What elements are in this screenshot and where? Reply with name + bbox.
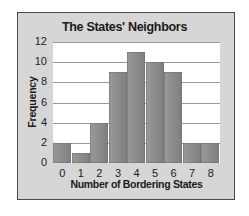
y-tick-label: 10 [21,55,47,67]
bar-1 [72,153,90,163]
x-axis-label: Number of Bordering States [53,178,220,190]
bar-5 [146,62,164,163]
y-tick-label: 4 [21,116,47,128]
y-tick-label: 8 [21,75,47,87]
y-tick-label: 2 [21,136,47,148]
y-tick-label: 0 [21,156,47,168]
chart-title: The States' Neighbors [0,20,249,34]
y-tick-label: 12 [21,35,47,47]
bar-2 [90,123,108,163]
y-tick-label: 6 [21,96,47,108]
bar-6 [164,72,182,163]
bar-3 [109,72,127,163]
bar-7 [183,143,201,163]
plot-area [53,42,220,163]
bar-0 [53,143,71,163]
bar-8 [201,143,219,163]
gridline [53,42,220,43]
bar-4 [127,52,145,163]
